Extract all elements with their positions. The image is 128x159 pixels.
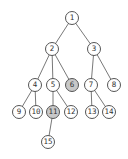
tree-node-14: 14 bbox=[102, 105, 116, 119]
tree-node-12: 12 bbox=[64, 105, 78, 119]
tree-node-8: 8 bbox=[107, 78, 121, 92]
node-label: 4 bbox=[33, 81, 38, 89]
node-label: 8 bbox=[112, 81, 117, 89]
tree-node-5: 5 bbox=[46, 78, 60, 92]
node-label: 6 bbox=[70, 81, 75, 89]
node-label: 5 bbox=[51, 81, 56, 89]
node-label: 2 bbox=[50, 45, 55, 53]
node-label: 12 bbox=[66, 108, 75, 116]
tree-node-15: 15 bbox=[41, 135, 55, 149]
node-label: 7 bbox=[89, 81, 94, 89]
node-label: 13 bbox=[87, 108, 96, 116]
tree-node-4: 4 bbox=[28, 78, 42, 92]
node-label: 3 bbox=[92, 45, 97, 53]
tree-node-11: 11 bbox=[46, 105, 60, 119]
node-label: 9 bbox=[17, 108, 22, 116]
tree-node-7: 7 bbox=[84, 78, 98, 92]
tree-node-6: 6 bbox=[65, 78, 79, 92]
tree-node-2: 2 bbox=[45, 42, 59, 56]
tree-node-10: 10 bbox=[29, 105, 43, 119]
tree-node-3: 3 bbox=[87, 42, 101, 56]
tree-node-1: 1 bbox=[65, 11, 79, 25]
tree-node-9: 9 bbox=[12, 105, 26, 119]
node-label: 15 bbox=[43, 138, 52, 146]
node-label: 1 bbox=[70, 14, 75, 22]
node-label: 14 bbox=[104, 108, 113, 116]
tree-diagram: 123456789101112131415 bbox=[0, 0, 128, 159]
tree-node-13: 13 bbox=[85, 105, 99, 119]
node-label: 10 bbox=[31, 108, 40, 116]
node-label: 11 bbox=[48, 108, 57, 116]
